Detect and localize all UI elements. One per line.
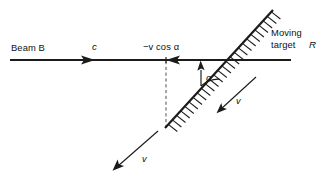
- angle-arc-arrowhead: [197, 61, 204, 71]
- target-symbol-label: R: [309, 39, 316, 50]
- lower-velocity-arrowhead: [113, 160, 125, 171]
- moving-target-label-line1: Moving: [271, 27, 302, 38]
- surface-velocity-label: v: [236, 96, 242, 106]
- lower-velocity-arrow-shaft: [118, 131, 158, 166]
- moving-target-label-line2: target: [271, 39, 296, 50]
- diagram-svg: Beam B c −v cos α α Moving target R v v: [0, 0, 328, 182]
- physics-diagram-canvas: Beam B c −v cos α α Moving target R v v: [0, 0, 328, 182]
- beam-label: Beam B: [11, 42, 45, 53]
- beam-speed-label: c: [92, 41, 97, 52]
- angle-label: α: [206, 72, 212, 83]
- velocity-component-label: −v cos α: [143, 41, 180, 52]
- surface-hatching: [168, 12, 280, 132]
- lower-velocity-label: v: [142, 154, 148, 164]
